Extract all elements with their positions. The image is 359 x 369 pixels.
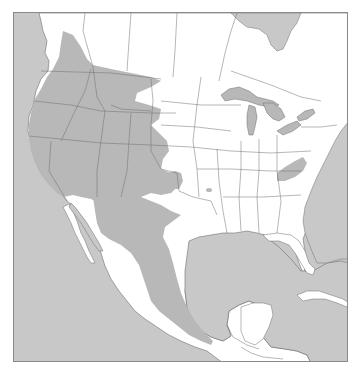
range-map	[14, 13, 348, 362]
arkansas-spot	[206, 188, 212, 192]
map-frame	[13, 12, 348, 362]
